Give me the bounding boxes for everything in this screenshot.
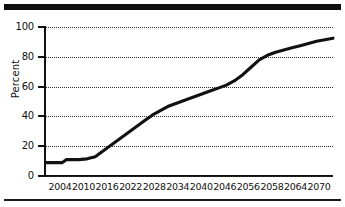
y-axis-tick	[38, 175, 45, 177]
y-axis-tick-label: 0	[8, 171, 34, 181]
y-axis-tick	[38, 26, 45, 28]
bottom-rule-divider	[4, 199, 341, 201]
chart-figure: Percent 020406080100 2004201020162022202…	[0, 0, 345, 207]
y-axis-tick	[38, 115, 45, 117]
y-axis-tick-label: 20	[8, 141, 34, 151]
y-axis-tick	[38, 56, 45, 58]
y-axis-tick-label: 60	[8, 82, 34, 92]
x-axis-tick-label: 2070	[302, 181, 336, 192]
top-rule-divider	[4, 4, 341, 10]
gridline	[46, 176, 333, 177]
y-axis-tick-label: 80	[8, 52, 34, 62]
y-axis-tick	[38, 86, 45, 88]
y-axis-tick	[38, 145, 45, 147]
y-axis-tick-label: 100	[8, 22, 34, 32]
series-percent-line	[46, 27, 333, 176]
series-polyline	[46, 38, 333, 162]
plot-area	[46, 27, 333, 176]
y-axis-tick-label: 40	[8, 111, 34, 121]
